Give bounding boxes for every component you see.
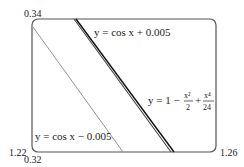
y-tick-top: 0.34 (24, 8, 42, 19)
x-tick-right: 1.26 (220, 147, 238, 158)
y-tick-bottom: 0.32 (24, 154, 42, 165)
label-cos-minus: y = cos x − 0.005 (35, 130, 112, 142)
taylor-frac1-num: x² (184, 91, 191, 100)
taylor-prefix: y = 1 − (148, 94, 180, 106)
taylor-frac2-den: 24 (203, 103, 211, 112)
label-cos-plus: y = cos x + 0.005 (94, 26, 171, 38)
taylor-plus: + (195, 94, 201, 106)
taylor-frac2-num: x⁴ (204, 91, 211, 100)
taylor-frac1-den: 2 (186, 103, 190, 112)
x-tick-left: 1.22 (9, 147, 27, 158)
chart-canvas: 0.34 0.32 1.22 1.26 y = cos x + 0.005 y … (0, 0, 244, 167)
label-taylor: y = 1 − x² 2 + x⁴ 24 (148, 91, 214, 112)
